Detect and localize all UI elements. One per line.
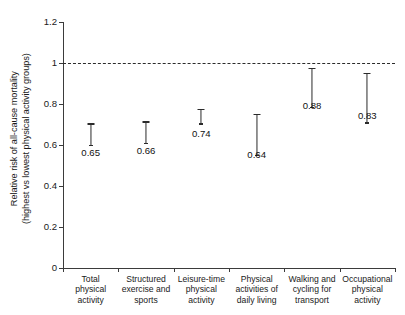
bar-value-label: 0.74 — [181, 129, 222, 139]
plot-area: 00.20.40.60.811.2 0.650.660.740.640.880.… — [63, 22, 395, 268]
y-tick-label: 1 — [52, 58, 57, 68]
x-axis-category-labels: TotalphysicalactivityStructuredexercise … — [63, 274, 395, 315]
x-category-label: Totalphysicalactivity — [63, 274, 118, 305]
x-category-label-line: activities of — [229, 284, 284, 294]
bar-group[interactable]: 0.64 — [236, 22, 277, 268]
error-bar-cap-upper — [253, 114, 260, 115]
x-category-label-line: Physical — [229, 274, 284, 284]
error-bar-cap-lower — [144, 143, 148, 144]
error-bar-stem — [145, 121, 146, 143]
y-tick-label: 0 — [52, 263, 57, 273]
error-bar-cap-upper — [309, 68, 316, 69]
x-category-label-line: Structured — [118, 274, 173, 284]
error-bar-cap-lower — [199, 123, 203, 124]
x-category-label-line: daily living — [229, 295, 284, 305]
x-category-label-line: activity — [340, 295, 395, 305]
x-category-label-line: exercise and — [118, 284, 173, 294]
bar-value-label: 0.88 — [292, 101, 333, 111]
error-bar-cap-upper — [87, 123, 94, 124]
x-category-label-line: activity — [174, 295, 229, 305]
y-axis-title-line2: (highest vs lowest physical activity gro… — [20, 54, 32, 225]
error-bar-cap-upper — [143, 121, 150, 122]
relative-risk-bar-chart: Relative risk of all-cause mortality (hi… — [0, 0, 405, 315]
y-tick-label: 0.4 — [44, 181, 57, 191]
bar-value-label: 0.64 — [236, 150, 277, 160]
x-tick-mark — [118, 268, 119, 272]
y-tick-label: 0.6 — [44, 140, 57, 150]
bar-group[interactable]: 0.66 — [126, 22, 167, 268]
x-category-label: Physicalactivities ofdaily living — [229, 274, 284, 305]
x-tick-mark — [63, 268, 64, 272]
bar-group[interactable]: 0.83 — [347, 22, 388, 268]
x-category-label: Occupationalphysicalactivity — [340, 274, 395, 305]
bar-group[interactable]: 0.65 — [70, 22, 111, 268]
x-category-label-line: Occupational — [340, 274, 395, 284]
x-category-label: Structuredexercise andsports — [118, 274, 173, 305]
bar-value-label: 0.65 — [70, 148, 111, 158]
y-tick-label: 0.8 — [44, 99, 57, 109]
x-tick-mark — [395, 268, 396, 272]
x-tick-mark — [340, 268, 341, 272]
y-axis-title-line1: Relative risk of all-cause mortality — [8, 54, 20, 225]
x-tick-mark — [174, 268, 175, 272]
x-category-label-line: physical — [340, 284, 395, 294]
x-category-label: Walking andcycling fortransport — [284, 274, 339, 305]
x-category-label-line: physical — [174, 284, 229, 294]
error-bar-cap-upper — [198, 109, 205, 110]
bar-value-label: 0.66 — [126, 146, 167, 156]
x-tick-mark — [284, 268, 285, 272]
error-bar-cap-upper — [364, 73, 371, 74]
bar-value-label: 0.83 — [347, 111, 388, 121]
x-category-label-line: Walking and — [284, 274, 339, 284]
bar-group[interactable]: 0.88 — [292, 22, 333, 268]
x-category-label-line: Leisure-time — [174, 274, 229, 284]
x-category-label-line: sports — [118, 295, 173, 305]
x-category-label-line: physical — [63, 284, 118, 294]
error-bar-stem — [201, 109, 202, 123]
x-category-label: Leisure-timephysicalactivity — [174, 274, 229, 305]
x-category-label-line: activity — [63, 295, 118, 305]
error-bar-cap-lower — [89, 145, 93, 146]
x-tick-mark — [229, 268, 230, 272]
bar-rect[interactable] — [292, 88, 333, 268]
x-category-label-line: transport — [284, 295, 339, 305]
x-category-label-line: Total — [63, 274, 118, 284]
bar-series: 0.650.660.740.640.880.83 — [63, 22, 395, 268]
y-tick-label: 1.2 — [44, 17, 57, 27]
y-tick-label: 0.2 — [44, 222, 57, 232]
y-axis-title: Relative risk of all-cause mortality (hi… — [0, 0, 40, 278]
error-bar-cap-lower — [365, 122, 369, 123]
x-category-label-line: cycling for — [284, 284, 339, 294]
error-bar-stem — [90, 123, 91, 145]
bar-group[interactable]: 0.74 — [181, 22, 222, 268]
